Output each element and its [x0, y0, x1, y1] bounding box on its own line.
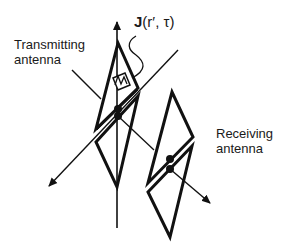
transmitting-label-line2: antenna: [14, 52, 85, 67]
receiving-label-line2: antenna: [216, 141, 273, 156]
receiving-label: Receiving antenna: [216, 126, 273, 156]
antenna-diagram: J(r′, τ) Transmitting antenna Receiving …: [0, 0, 284, 251]
transmitting-label: Transmitting antenna: [14, 37, 85, 67]
receiving-label-line1: Receiving: [216, 126, 273, 141]
propagation-arrow: [170, 169, 210, 203]
diagonal-axis-arrow: [49, 50, 178, 186]
receiving-antenna: [148, 92, 193, 237]
receive-terminal-icon: [166, 155, 174, 163]
transmitting-leader-line: [72, 70, 101, 99]
current-arguments: (r′, τ): [142, 13, 174, 30]
feed-terminal-icon: [114, 105, 122, 113]
coupling-line: [118, 116, 154, 150]
transmitting-label-line1: Transmitting: [14, 37, 85, 52]
current-source-icon: [113, 73, 130, 90]
current-density-label: J(r′, τ): [134, 13, 174, 30]
